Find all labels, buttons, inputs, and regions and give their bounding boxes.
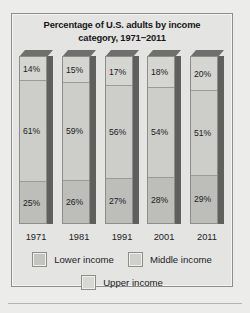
chart-legend: Lower income Middle income Upper income <box>12 252 232 298</box>
legend-item-upper-income[interactable]: Upper income <box>81 275 163 290</box>
stacked-bar[interactable]: 14%61%25% <box>19 56 47 224</box>
legend-label-middle-income: Middle income <box>150 254 212 265</box>
chart-title: Percentage of U.S. adults by income cate… <box>22 19 222 44</box>
stacked-bar[interactable]: 17%56%27% <box>105 56 133 224</box>
bar-segment-value-label: 27% <box>106 196 126 206</box>
stacked-bar[interactable]: 15%59%26% <box>62 56 90 224</box>
bar-segment-middle-income[interactable]: 51% <box>191 90 217 175</box>
bar-segment-value-label: 28% <box>148 195 168 205</box>
bar-segment-lower-income[interactable]: 26% <box>63 180 89 223</box>
x-axis-tick-label: 1971 <box>19 232 53 242</box>
bar-side-face <box>175 56 181 224</box>
legend-row-2: Upper income <box>12 275 232 290</box>
legend-item-lower-income[interactable]: Lower income <box>32 252 114 267</box>
legend-label-lower-income: Lower income <box>54 254 114 265</box>
bar-segment-value-label: 26% <box>63 197 83 207</box>
bar-segment-lower-income[interactable]: 28% <box>148 177 174 223</box>
bar-segment-middle-income[interactable]: 54% <box>148 87 174 177</box>
bar-segment-upper-income[interactable]: 14% <box>20 57 46 80</box>
bar-segment-value-label: 17% <box>106 66 126 77</box>
chart-title-line-2: category, 1971−2011 <box>22 32 222 45</box>
bar-segment-value-label: 59% <box>63 126 83 136</box>
bar-group: 18%54%28% <box>147 50 181 230</box>
bar-segment-upper-income[interactable]: 20% <box>191 57 217 90</box>
bar-segment-lower-income[interactable]: 25% <box>20 181 46 223</box>
legend-row-1: Lower income Middle income <box>12 252 232 267</box>
bar-segment-value-label: 51% <box>191 128 211 138</box>
bar-segment-middle-income[interactable]: 56% <box>106 85 132 178</box>
stacked-bar[interactable]: 18%54%28% <box>147 56 175 224</box>
bar-segment-value-label: 20% <box>191 68 211 79</box>
stacked-bar[interactable]: 20%51%29% <box>190 56 218 224</box>
bar-segment-value-label: 14% <box>20 63 40 74</box>
bar-side-face <box>90 56 96 224</box>
x-axis-labels: 19711981199120012011 <box>16 232 230 248</box>
bar-segment-value-label: 61% <box>20 126 40 136</box>
bar-segment-upper-income[interactable]: 17% <box>106 57 132 85</box>
footer-divider <box>8 303 242 304</box>
bar-segment-lower-income[interactable]: 29% <box>191 175 217 223</box>
x-axis-tick-label: 1981 <box>62 232 96 242</box>
bar-group: 14%61%25% <box>19 50 53 230</box>
x-axis-tick-label: 1991 <box>105 232 139 242</box>
bar-segment-value-label: 29% <box>191 194 211 204</box>
bar-side-face <box>47 56 53 224</box>
legend-swatch-icon-lower-income <box>32 252 47 267</box>
bar-segment-value-label: 56% <box>106 127 126 137</box>
bar-side-face <box>133 56 139 224</box>
legend-item-middle-income[interactable]: Middle income <box>128 252 212 267</box>
bar-segment-middle-income[interactable]: 59% <box>63 82 89 180</box>
x-axis-tick-label: 2001 <box>147 232 181 242</box>
bar-segment-middle-income[interactable]: 61% <box>20 80 46 181</box>
legend-swatch-icon-middle-income <box>128 252 143 267</box>
bar-segment-value-label: 25% <box>20 198 40 208</box>
bar-group: 15%59%26% <box>62 50 96 230</box>
chart-title-line-1: Percentage of U.S. adults by income <box>22 19 222 32</box>
bar-group: 20%51%29% <box>190 50 224 230</box>
bar-segment-upper-income[interactable]: 18% <box>148 57 174 87</box>
legend-label-upper-income: Upper income <box>103 277 163 288</box>
legend-swatch-icon-upper-income <box>81 275 96 290</box>
bar-segment-upper-income[interactable]: 15% <box>63 57 89 82</box>
bar-segment-value-label: 15% <box>63 64 83 75</box>
chart-panel: Percentage of U.S. adults by income cate… <box>11 13 233 287</box>
plot-area: 14%61%25%15%59%26%17%56%27%18%54%28%20%5… <box>16 50 230 230</box>
chart-screenshot: Percentage of U.S. adults by income cate… <box>0 0 250 313</box>
bar-segment-lower-income[interactable]: 27% <box>106 178 132 223</box>
bar-side-face <box>218 56 224 224</box>
bar-segment-value-label: 54% <box>148 127 168 137</box>
bar-group: 17%56%27% <box>105 50 139 230</box>
bar-segment-value-label: 18% <box>148 66 168 77</box>
x-axis-tick-label: 2011 <box>190 232 224 242</box>
